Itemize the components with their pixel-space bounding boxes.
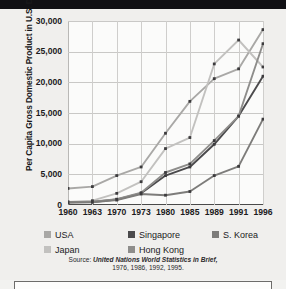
legend-row: USASingaporeS. Korea <box>44 228 270 241</box>
series-line-usa <box>68 30 263 189</box>
data-point-marker <box>91 201 94 204</box>
data-point-marker <box>115 192 118 195</box>
legend-row: JapanHong Kong <box>44 243 270 256</box>
legend-swatch-icon <box>44 246 51 253</box>
legend-label: Japan <box>55 245 80 255</box>
y-tick-label: 25,000 <box>10 46 62 56</box>
data-point-marker <box>164 171 167 174</box>
data-point-marker <box>237 165 240 168</box>
chart-legend: USASingaporeS. KoreaJapanHong Kong <box>44 228 270 256</box>
data-point-marker <box>262 66 264 69</box>
legend-item-hong-kong[interactable]: Hong Kong <box>128 243 184 256</box>
data-point-marker <box>213 139 216 142</box>
data-point-marker <box>188 190 191 193</box>
data-point-marker <box>164 147 167 150</box>
chart-figure: Per Capita Gross Domestic Product in U.S… <box>0 0 286 289</box>
x-tick-labels: 196019631970197319801985198919911996 <box>68 207 264 221</box>
source-line-1: Source: United Nations World Statistics … <box>0 256 286 263</box>
y-tick-label: 15,000 <box>10 108 62 118</box>
legend-label: Hong Kong <box>139 245 184 255</box>
data-point-marker <box>262 75 264 78</box>
data-point-marker <box>164 132 167 135</box>
legend-label: S. Korea <box>223 230 258 240</box>
legend-label: Singapore <box>139 230 180 240</box>
series-line-singapore <box>68 76 263 202</box>
data-point-marker <box>213 143 216 146</box>
data-point-marker <box>68 201 69 204</box>
series-line-s-korea <box>68 119 263 202</box>
data-point-marker <box>237 39 240 42</box>
data-point-marker <box>262 118 264 121</box>
y-tick-label: 10,000 <box>10 138 62 148</box>
data-point-marker <box>115 199 118 202</box>
legend-item-s-korea[interactable]: S. Korea <box>212 228 258 241</box>
bottom-frame-edge <box>14 281 272 289</box>
source-title: United Nations World Statistics in Brief… <box>93 256 217 263</box>
legend-swatch-icon <box>212 231 219 238</box>
data-point-marker <box>188 163 191 166</box>
plot-area <box>68 21 264 205</box>
source-lead: Source: <box>68 256 93 263</box>
data-point-marker <box>68 187 69 190</box>
data-point-marker <box>213 77 216 80</box>
legend-item-singapore[interactable]: Singapore <box>128 228 180 241</box>
data-point-marker <box>213 174 216 177</box>
legend-swatch-icon <box>128 231 135 238</box>
legend-label: USA <box>55 230 74 240</box>
series-lines <box>68 21 264 205</box>
data-point-marker <box>262 28 264 31</box>
data-point-marker <box>91 185 94 188</box>
x-tick-label: 1996 <box>246 207 280 217</box>
data-point-marker <box>140 166 143 169</box>
legend-item-japan[interactable]: Japan <box>44 243 80 256</box>
data-point-marker <box>164 174 167 177</box>
data-point-marker <box>213 63 216 66</box>
data-point-marker <box>262 42 264 45</box>
data-point-marker <box>115 174 118 177</box>
data-point-marker <box>164 194 167 197</box>
legend-swatch-icon <box>128 246 135 253</box>
legend-swatch-icon <box>44 231 51 238</box>
y-tick-label: 5,000 <box>10 169 62 179</box>
data-point-marker <box>188 100 191 103</box>
data-point-marker <box>237 67 240 70</box>
top-banner-bar <box>0 0 286 9</box>
data-point-marker <box>140 193 143 196</box>
y-tick-label: 30,000 <box>10 16 62 26</box>
data-point-marker <box>188 136 191 139</box>
data-point-marker <box>188 166 191 169</box>
source-note: Source: United Nations World Statistics … <box>0 256 286 271</box>
data-point-marker <box>237 115 240 118</box>
y-tick-label: 20,000 <box>10 77 62 87</box>
legend-item-usa[interactable]: USA <box>44 228 74 241</box>
data-point-marker <box>140 180 143 183</box>
source-line-2: 1976, 1986, 1992, 1995. <box>0 264 286 271</box>
